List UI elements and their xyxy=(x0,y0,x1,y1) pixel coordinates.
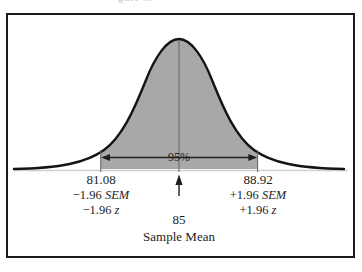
lower-bound-z-unit: z xyxy=(115,203,120,217)
upper-bound-z-unit: z xyxy=(272,203,277,217)
lower-bound-sem-unit: SEM xyxy=(105,188,129,202)
upper-bound-sem-unit: SEM xyxy=(262,188,286,202)
sample-mean-value: 85 xyxy=(173,212,186,228)
lower-bound-value: 81.08 xyxy=(86,172,115,188)
upper-bound-value: 88.92 xyxy=(243,172,272,188)
mean-pointer-head xyxy=(175,175,182,186)
lower-bound-z-sign: −1.96 xyxy=(83,203,115,217)
lower-bound-sem-sign: −1.96 xyxy=(73,188,105,202)
lower-bound-z: −1.96 z xyxy=(83,203,120,218)
sample-mean-label: Sample Mean xyxy=(143,229,215,245)
upper-bound-sem: +1.96 SEM xyxy=(230,188,286,203)
upper-bound-z-sign: +1.96 xyxy=(240,203,272,217)
confidence-percent-label: 95% xyxy=(168,150,190,165)
figure-root: gure ... xyxy=(0,0,362,272)
upper-bound-z: +1.96 z xyxy=(240,203,277,218)
lower-bound-sem: −1.96 SEM xyxy=(73,188,129,203)
upper-bound-sem-sign: +1.96 xyxy=(230,188,262,202)
